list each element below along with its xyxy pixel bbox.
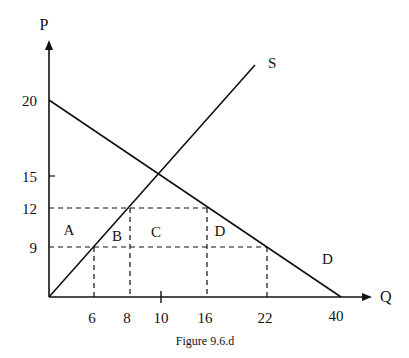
y-tick-label-9: 9 xyxy=(30,240,38,256)
x-tick-label-40: 40 xyxy=(329,308,344,324)
y-tick-label-15: 15 xyxy=(22,169,37,185)
x-axis-arrow-icon xyxy=(362,293,372,301)
supply-demand-chart: P Q S D 20 15 12 9 6 8 10 16 22 40 A B C… xyxy=(0,0,409,358)
supply-label: S xyxy=(268,55,276,71)
y-axis-arrow-icon xyxy=(45,40,53,50)
y-axis-label: P xyxy=(40,16,49,33)
y-tick-label-20: 20 xyxy=(22,93,37,109)
x-axis-label: Q xyxy=(380,288,392,305)
x-tick-label-10: 10 xyxy=(154,310,169,326)
y-tick-label-12: 12 xyxy=(22,201,37,217)
x-tick-label-16: 16 xyxy=(198,310,214,326)
region-label-c: C xyxy=(151,224,161,240)
region-label-a: A xyxy=(64,222,75,238)
region-label-b: B xyxy=(112,228,122,244)
demand-curve xyxy=(49,100,341,297)
region-label-d: D xyxy=(215,223,226,239)
x-tick-label-6: 6 xyxy=(88,310,96,326)
demand-label: D xyxy=(322,251,333,267)
figure: P Q S D 20 15 12 9 6 8 10 16 22 40 A B C… xyxy=(0,0,409,358)
supply-curve xyxy=(49,65,255,297)
x-tick-label-22: 22 xyxy=(258,310,273,326)
figure-caption: Figure 9.6.d xyxy=(176,334,234,348)
x-tick-label-8: 8 xyxy=(123,310,131,326)
dashed-guides xyxy=(49,208,267,297)
